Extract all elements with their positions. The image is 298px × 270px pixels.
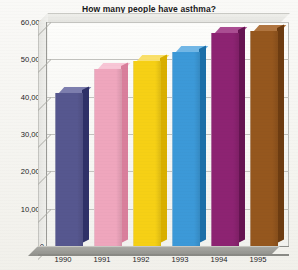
- bar-side-face: [277, 25, 284, 243]
- x-axis-label: 1994: [199, 255, 239, 264]
- bar-series: [47, 22, 289, 246]
- bar-side-face: [238, 27, 245, 243]
- x-axis-label: 1995: [238, 255, 278, 264]
- bar-1995[interactable]: [250, 31, 277, 246]
- bar-side-face: [160, 55, 167, 243]
- x-axis-label: 1993: [160, 255, 200, 264]
- bar-side-face: [199, 45, 206, 243]
- chart-canvas: How many people have asthma? 60,000 50,0…: [0, 0, 298, 270]
- bar-side-face: [82, 87, 89, 243]
- x-axis-labels: 1990 1991 1992 1993 1994 1995: [47, 255, 297, 269]
- bar-front-face: [55, 93, 83, 246]
- bar-1990[interactable]: [55, 93, 82, 246]
- x-axis-label: 1991: [82, 255, 122, 264]
- bar-side-face: [121, 62, 128, 243]
- bar-front-face: [211, 33, 239, 246]
- x-axis-label: 1992: [121, 255, 161, 264]
- bar-1993[interactable]: [172, 52, 199, 246]
- bar-front-face: [94, 69, 122, 246]
- bar-1991[interactable]: [94, 69, 121, 246]
- bar-front-face: [172, 52, 200, 246]
- x-axis-label: 1990: [43, 255, 83, 264]
- bar-1992[interactable]: [133, 61, 160, 246]
- bar-1994[interactable]: [211, 33, 238, 246]
- bar-front-face: [250, 31, 278, 246]
- bar-front-face: [133, 61, 161, 246]
